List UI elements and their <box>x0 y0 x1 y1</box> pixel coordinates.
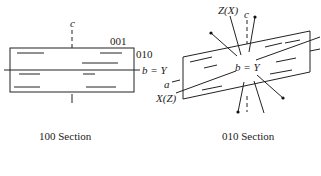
b-axis-label: b = Y <box>235 61 261 73</box>
plane-010-label: 010 <box>136 48 153 60</box>
x-axis-label: X(Z) <box>155 92 177 105</box>
optic-axis-pole <box>236 110 239 113</box>
c-axis-label: c <box>70 17 75 29</box>
optic-axis-spoke <box>249 17 255 52</box>
b-axis-label: b = Y <box>142 64 168 76</box>
lamella <box>270 70 292 74</box>
lamella <box>204 65 217 68</box>
a-axis-tick <box>172 80 180 82</box>
z-axis-spoke-lower <box>254 81 264 113</box>
section-010-caption: 010 Section <box>222 130 275 142</box>
lamella <box>265 43 282 47</box>
optic-axis-spoke <box>211 33 237 56</box>
section-100-diagram: c 001 010 b = Y 100 Section <box>4 17 168 142</box>
lamella <box>202 86 222 90</box>
lamella <box>285 40 300 43</box>
optic-axis-pole <box>253 15 256 18</box>
optic-axis-pole <box>281 96 284 99</box>
c-axis-label: c <box>244 8 249 20</box>
section-100-caption: 100 Section <box>39 130 92 142</box>
z-axis-label: Z(X) <box>218 4 239 17</box>
z-axis-spoke-upper <box>230 16 241 55</box>
a-axis-tick-right <box>310 49 320 51</box>
plane-001-label: 001 <box>110 35 127 47</box>
crystal-sections-diagram: c 001 010 b = Y 100 Section <box>0 0 321 176</box>
optic-axis-pole <box>209 31 212 34</box>
section-010-diagram: Z(X) c b = Y a X(Z) 010 Section <box>155 4 320 142</box>
lamella <box>276 58 296 62</box>
a-axis-label: a <box>164 78 170 90</box>
lamella <box>190 57 212 62</box>
